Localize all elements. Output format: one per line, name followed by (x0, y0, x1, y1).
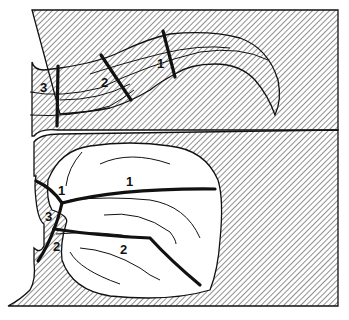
label-upper-3: 3 (40, 80, 47, 95)
label-lower-2a: 2 (53, 239, 60, 254)
hatched-section-diagram: 3 2 1 1 1 3 2 2 (0, 0, 349, 320)
label-lower-2b: 2 (120, 242, 127, 257)
label-lower-1b: 1 (126, 174, 133, 189)
label-lower-3: 3 (45, 209, 52, 224)
label-upper-1: 1 (157, 56, 164, 71)
label-lower-1a: 1 (58, 183, 65, 198)
diagram-canvas: 3 2 1 1 1 3 2 2 (0, 0, 349, 320)
label-upper-2: 2 (101, 75, 108, 90)
upper-hatched-block (28, 10, 338, 136)
